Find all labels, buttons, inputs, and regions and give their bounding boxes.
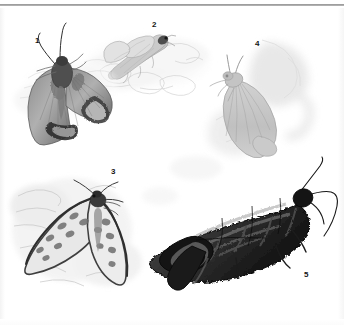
- figure-3-moth: [10, 178, 142, 286]
- figure-1-head: [56, 56, 68, 66]
- figure-label-2: 2: [152, 20, 156, 29]
- moth-illustrations-canvas: [0, 0, 344, 325]
- figure-label-3: 3: [111, 167, 115, 176]
- figure-label-4: 4: [255, 39, 259, 48]
- figure-label-5: 5: [304, 270, 308, 279]
- figure-4-moth: [208, 40, 310, 158]
- illustration-plate: 1 2 3 4 5: [0, 0, 344, 325]
- figure-1-moth: [14, 23, 118, 145]
- figure-5-background-wash: [142, 156, 222, 205]
- figure-label-1: 1: [35, 36, 39, 45]
